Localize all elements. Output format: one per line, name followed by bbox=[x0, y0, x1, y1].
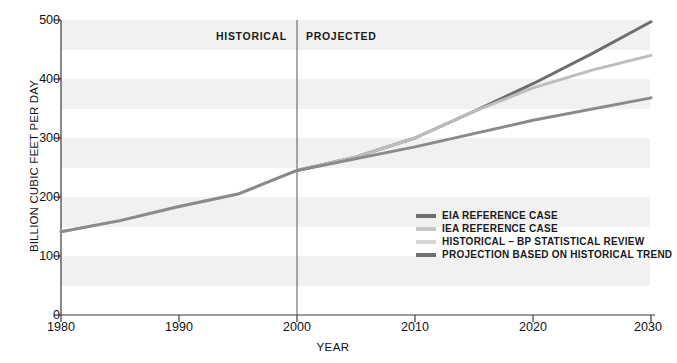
x-tick-label: 2030 bbox=[618, 320, 677, 334]
legend-item-label: EIA REFERENCE CASE bbox=[442, 210, 558, 221]
legend: EIA REFERENCE CASE IEA REFERENCE CASE HI… bbox=[416, 209, 672, 261]
legend-item: PROJECTION BASED ON HISTORICAL TREND bbox=[416, 248, 672, 261]
y-tick-label: 200 bbox=[20, 190, 60, 204]
y-tick-label: 400 bbox=[20, 72, 60, 86]
y-tick-label: 300 bbox=[20, 131, 60, 145]
legend-item-label: PROJECTION BASED ON HISTORICAL TREND bbox=[442, 249, 672, 260]
x-tick-label: 1990 bbox=[149, 320, 209, 334]
legend-item-label: HISTORICAL – BP STATISTICAL REVIEW bbox=[442, 236, 644, 247]
x-tick-label: 2010 bbox=[385, 320, 445, 334]
legend-swatch-icon bbox=[416, 214, 436, 218]
legend-item-label: IEA REFERENCE CASE bbox=[442, 223, 558, 234]
x-tick-label: 2000 bbox=[267, 320, 327, 334]
legend-item: EIA REFERENCE CASE bbox=[416, 209, 672, 222]
x-axis-title: YEAR bbox=[0, 341, 666, 353]
legend-swatch-icon bbox=[416, 240, 436, 244]
y-tick-label: 100 bbox=[20, 249, 60, 263]
legend-swatch-icon bbox=[416, 227, 436, 231]
historical-label: HISTORICAL bbox=[216, 30, 287, 42]
x-tick-label: 2020 bbox=[503, 320, 563, 334]
legend-item: IEA REFERENCE CASE bbox=[416, 222, 672, 235]
projected-label: PROJECTED bbox=[306, 30, 376, 42]
y-tick-label: 500 bbox=[20, 13, 60, 27]
x-tick-label: 1980 bbox=[31, 320, 91, 334]
legend-item: HISTORICAL – BP STATISTICAL REVIEW bbox=[416, 235, 672, 248]
legend-swatch-icon bbox=[416, 253, 436, 257]
y-axis-title: BILLION CUBIC FEET PER DAY bbox=[28, 36, 40, 296]
